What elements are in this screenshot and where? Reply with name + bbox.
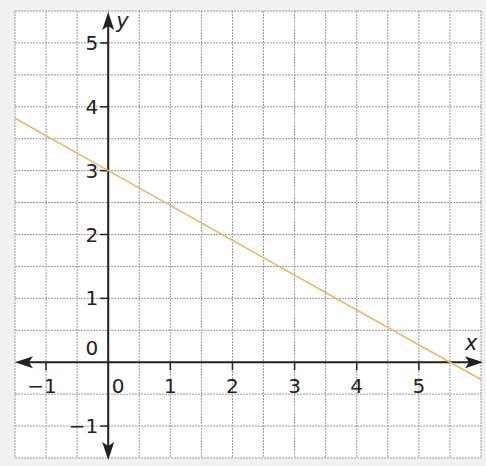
- y-tick-label: 2: [85, 223, 98, 247]
- line-graph: −1012345−1012345xy: [0, 0, 486, 466]
- x-tick-label: 2: [226, 374, 239, 398]
- x-tick-label: 0: [112, 374, 125, 398]
- x-tick-label: 1: [164, 374, 177, 398]
- x-tick-label: 3: [288, 374, 301, 398]
- y-tick-label: −1: [69, 414, 98, 438]
- x-axis-label: x: [464, 331, 478, 355]
- y-axis-label: y: [115, 9, 129, 33]
- x-tick-label: −1: [27, 374, 56, 398]
- y-tick-label: 0: [85, 336, 98, 360]
- x-tick-label: 4: [350, 374, 363, 398]
- y-tick-label: 3: [85, 159, 98, 183]
- y-tick-label: 5: [85, 31, 98, 55]
- y-tick-label: 4: [85, 95, 98, 119]
- x-tick-label: 5: [412, 374, 425, 398]
- y-tick-label: 1: [85, 286, 98, 310]
